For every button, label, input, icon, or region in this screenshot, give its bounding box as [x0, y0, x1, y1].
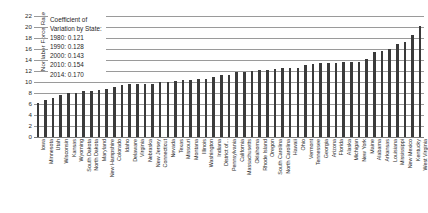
bar[interactable]	[113, 87, 116, 137]
bar[interactable]	[59, 95, 62, 137]
bar[interactable]	[159, 82, 162, 137]
y-tick-label-20: 20	[6, 23, 32, 30]
y-tick-label-8: 8	[6, 89, 32, 96]
bar[interactable]	[144, 84, 147, 137]
bar[interactable]	[105, 89, 108, 137]
x-tick-label: Mississippi	[399, 139, 405, 165]
x-tick-label: Kansas	[71, 139, 77, 157]
x-tick-label: Rhode Island	[262, 139, 268, 171]
bar[interactable]	[220, 75, 223, 137]
bar[interactable]	[167, 82, 170, 137]
bar[interactable]	[136, 84, 139, 137]
bar[interactable]	[266, 70, 269, 137]
bar[interactable]	[350, 62, 353, 137]
bar[interactable]	[304, 65, 307, 137]
bar[interactable]	[312, 64, 315, 137]
x-tick-label: Arizona	[331, 139, 337, 157]
x-tick-label: Vermont	[308, 139, 314, 159]
x-tick-label: Massachusetts	[246, 139, 252, 175]
x-tick-label: Connecticut	[162, 139, 168, 167]
y-tick-label-6: 6	[6, 100, 32, 107]
bar[interactable]	[212, 77, 215, 137]
y-tick-label-0: 0	[6, 133, 32, 140]
annotation-entry: 2000: 0.143	[50, 51, 102, 60]
bar[interactable]	[228, 75, 231, 137]
x-tick-label: South Dakota	[86, 139, 92, 172]
x-tick-label: Nebraska	[147, 139, 153, 162]
bar[interactable]	[205, 79, 208, 137]
bar[interactable]	[189, 80, 192, 137]
x-tick-label: Maryland	[101, 139, 107, 161]
x-tick-label: Montana	[193, 139, 199, 160]
x-tick-label: New Mexico	[407, 139, 413, 168]
bar[interactable]	[358, 62, 361, 137]
bar[interactable]	[67, 93, 70, 137]
x-tick-label: Utah	[55, 139, 61, 150]
x-tick-label: Wisconsin	[63, 139, 69, 164]
bar[interactable]	[37, 103, 40, 137]
annotation-entry: 1990: 0.128	[50, 42, 102, 51]
annotation-entry: 2014: 0.170	[50, 70, 102, 79]
x-tick-label: Ohio	[300, 139, 306, 150]
bar[interactable]	[297, 68, 300, 137]
x-tick-label: District of...	[223, 139, 229, 166]
bar[interactable]	[342, 62, 345, 137]
bar[interactable]	[75, 93, 78, 137]
x-tick-label: Nevada	[170, 139, 176, 158]
bar[interactable]	[396, 44, 399, 137]
annotation-heading-line-1: Coefficient of	[50, 15, 102, 24]
x-tick-label: Oregon	[269, 139, 275, 157]
bar[interactable]	[365, 59, 368, 137]
bar[interactable]	[258, 70, 261, 137]
x-tick-label: Georgia	[323, 139, 329, 158]
bar[interactable]	[182, 80, 185, 137]
bar[interactable]	[335, 63, 338, 137]
x-tick-label: Iowa	[40, 139, 46, 150]
y-tick-label-16: 16	[6, 45, 32, 52]
bar[interactable]	[411, 35, 414, 137]
x-tick-label: Pennsylvania	[231, 139, 237, 171]
bar[interactable]	[274, 69, 277, 137]
bar[interactable]	[373, 52, 376, 137]
bar[interactable]	[235, 72, 238, 137]
bar[interactable]	[44, 100, 47, 137]
x-tick-label: Tennessee	[315, 139, 321, 165]
bar[interactable]	[121, 85, 124, 137]
x-tick-label: Kentucky	[415, 139, 421, 161]
bar[interactable]	[174, 81, 177, 137]
x-tick-label: New Jersey	[155, 139, 161, 167]
bar[interactable]	[128, 84, 131, 137]
x-tick-label: New Hampshire	[109, 139, 115, 177]
bar[interactable]	[404, 42, 407, 137]
x-tick-label: West Virginia	[422, 139, 428, 171]
x-tick-label: Idaho	[124, 139, 130, 153]
x-tick-label: North Dakota	[93, 139, 99, 171]
bar[interactable]	[419, 26, 422, 137]
bar[interactable]	[151, 84, 154, 137]
bar[interactable]	[319, 63, 322, 137]
bar[interactable]	[381, 51, 384, 137]
y-tick-label-2: 2	[6, 122, 32, 129]
bar[interactable]	[52, 98, 55, 137]
x-tick-label: North Carolina	[285, 139, 291, 174]
x-tick-label: Texas	[178, 139, 184, 153]
bar[interactable]	[327, 63, 330, 137]
annotation-entry: 2010: 0.154	[50, 60, 102, 69]
y-tick-label-14: 14	[6, 56, 32, 63]
annotation-heading-line-2: Variation by State:	[50, 24, 102, 33]
bar[interactable]	[289, 68, 292, 137]
y-tick-label-4: 4	[6, 111, 32, 118]
x-tick-label: Maine	[369, 139, 375, 154]
x-tick-label: Delaware	[132, 139, 138, 162]
bar[interactable]	[197, 79, 200, 137]
bar[interactable]	[281, 68, 284, 137]
bar[interactable]	[90, 91, 93, 137]
bar[interactable]	[251, 71, 254, 137]
bar[interactable]	[388, 49, 391, 137]
bar[interactable]	[243, 72, 246, 137]
annotation-entries: 1980: 0.1211990: 0.1282000: 0.1432010: 0…	[50, 33, 102, 78]
bar[interactable]	[98, 90, 101, 137]
bar[interactable]	[82, 91, 85, 137]
x-tick-label: Illinois	[201, 139, 207, 154]
